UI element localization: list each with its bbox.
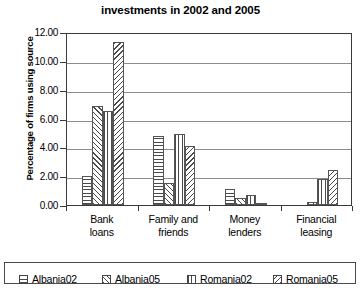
- bar: [225, 189, 236, 205]
- x-category-label: Bankloans: [66, 213, 138, 239]
- x-tick-mark: [209, 206, 210, 211]
- x-category-label: Moneylenders: [209, 213, 281, 239]
- x-category-label-line: Money: [209, 213, 281, 226]
- legend-swatch-icon: [102, 275, 111, 284]
- legend-swatch-icon: [273, 275, 282, 284]
- bar-group: [296, 34, 338, 205]
- legend-item-albania05[interactable]: Albania05: [102, 273, 160, 285]
- x-category-label-line: leasing: [281, 226, 353, 239]
- legend-label: Albania05: [115, 273, 160, 285]
- y-tick-label: 0.00: [18, 201, 58, 211]
- bar: [174, 134, 185, 205]
- x-category-label-line: Family and: [138, 213, 210, 226]
- y-tick-label: 4.00: [18, 143, 58, 153]
- bar: [153, 136, 164, 205]
- bar: [328, 170, 339, 205]
- bar-chart: investments in 2002 and 2005 Percentage …: [0, 0, 361, 292]
- legend: Albania02Albania05Romania02Romania05: [4, 262, 356, 284]
- y-tick-label: 6.00: [18, 115, 58, 125]
- bar: [185, 146, 196, 205]
- bar: [164, 183, 175, 205]
- bar: [256, 203, 267, 205]
- legend-label: Albania02: [32, 273, 77, 285]
- legend-item-romania05[interactable]: Romania05: [273, 273, 338, 285]
- chart-title: investments in 2002 and 2005: [0, 0, 361, 18]
- x-category-label-line: friends: [138, 226, 210, 239]
- bar: [235, 198, 246, 205]
- bar: [82, 176, 93, 205]
- legend-label: Romania05: [286, 273, 338, 285]
- bar: [92, 106, 103, 205]
- y-tick-label: 12.00: [18, 28, 58, 38]
- y-tick-label: 2.00: [18, 172, 58, 182]
- y-tick-label: 8.00: [18, 86, 58, 96]
- x-category-label-line: Bank: [66, 213, 138, 226]
- bar: [103, 111, 114, 205]
- bar: [113, 42, 124, 205]
- x-category-label-line: Financial: [281, 213, 353, 226]
- legend-item-romania02[interactable]: Romania02: [187, 273, 252, 285]
- bar-group: [225, 34, 267, 205]
- legend-swatch-icon: [19, 275, 28, 284]
- bar: [307, 202, 318, 205]
- bar-group: [82, 34, 124, 205]
- x-tick-mark: [138, 206, 139, 211]
- x-tick-mark: [66, 206, 67, 211]
- bar: [317, 179, 328, 205]
- x-category-label-line: lenders: [209, 226, 281, 239]
- x-category-label: Family andfriends: [138, 213, 210, 239]
- legend-label: Romania02: [200, 273, 252, 285]
- x-category-label-line: loans: [66, 226, 138, 239]
- x-category-label: Financialleasing: [281, 213, 353, 239]
- plot-area: [66, 33, 352, 206]
- legend-item-albania02[interactable]: Albania02: [19, 273, 77, 285]
- y-tick-label: 10.00: [18, 57, 58, 67]
- legend-swatch-icon: [187, 275, 196, 284]
- bar-group: [153, 34, 195, 205]
- x-tick-mark: [281, 206, 282, 211]
- x-tick-mark: [352, 206, 353, 211]
- bar: [246, 195, 257, 205]
